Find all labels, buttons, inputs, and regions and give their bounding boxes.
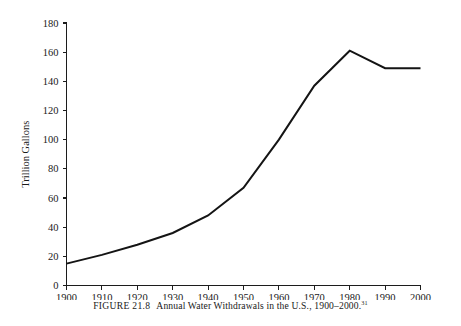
footnote-marker: 31 — [361, 299, 368, 306]
y-tick-label: 100 — [43, 134, 59, 145]
y-tick-label: 120 — [43, 105, 59, 116]
figure-caption: FIGURE 21.8Annual Water Withdrawals in t… — [0, 300, 461, 311]
y-tick-label: 0 — [53, 280, 58, 291]
x-tick-label: 1940 — [198, 292, 219, 301]
y-tick-label: 80 — [48, 163, 59, 174]
x-tick-label: 1900 — [56, 292, 77, 301]
data-series-line — [67, 51, 421, 264]
figure-title: Annual Water Withdrawals in the U.S., 19… — [156, 300, 361, 311]
x-axis-tick-labels: 1900191019201930194019501960197019801990… — [56, 292, 431, 301]
y-tick-label: 180 — [43, 18, 59, 29]
y-tick-label: 20 — [48, 251, 59, 262]
x-axis-tick-marks — [67, 286, 421, 290]
x-tick-label: 1980 — [339, 292, 360, 301]
line-chart: 020406080100120140160180 190019101920193… — [0, 0, 461, 300]
x-tick-label: 1970 — [304, 292, 325, 301]
x-tick-label: 1950 — [233, 292, 254, 301]
y-axis-tick-marks — [63, 23, 67, 286]
x-tick-label: 1990 — [375, 292, 396, 301]
figure-container: 020406080100120140160180 190019101920193… — [0, 0, 461, 326]
x-tick-label: 1920 — [127, 292, 148, 301]
chart-plot-area: 020406080100120140160180 190019101920193… — [0, 0, 461, 300]
x-tick-label: 1930 — [162, 292, 183, 301]
y-tick-label: 160 — [43, 47, 59, 58]
y-axis-title: Trillion Gallons — [20, 121, 31, 188]
y-tick-label: 60 — [48, 193, 59, 204]
figure-number: FIGURE 21.8 — [93, 300, 150, 311]
x-tick-label: 2000 — [410, 292, 431, 301]
y-tick-label: 140 — [43, 76, 59, 87]
x-tick-label: 1960 — [268, 292, 289, 301]
y-tick-label: 40 — [48, 222, 59, 233]
y-axis-tick-labels: 020406080100120140160180 — [43, 18, 59, 292]
x-tick-label: 1910 — [91, 292, 112, 301]
